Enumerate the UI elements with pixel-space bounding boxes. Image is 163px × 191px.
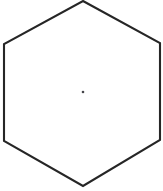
hexagon-center-point bbox=[82, 91, 85, 94]
figure-container bbox=[0, 0, 163, 191]
hexagon-outline bbox=[4, 1, 160, 186]
hexagon-symmetry-diagram bbox=[0, 0, 163, 191]
